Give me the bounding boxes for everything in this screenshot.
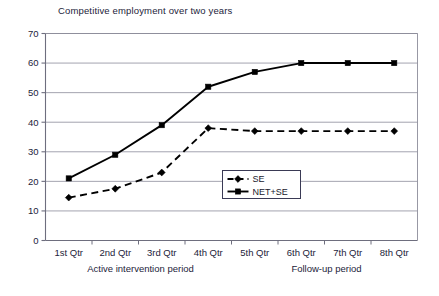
x-tick-label-2: 2nd Qtr [99, 247, 131, 258]
series-marker-net-se-4 [206, 84, 211, 89]
x-tick-label-5: 5th Qtr [240, 247, 269, 258]
y-tick-label-70: 70 [28, 28, 39, 39]
y-tick-label-50: 50 [28, 87, 39, 98]
axes [46, 34, 418, 241]
series-marker-net-se-7 [345, 60, 350, 65]
series-marker-se-3 [158, 169, 165, 176]
y-tick-label-10: 10 [28, 205, 39, 216]
x-tick-label-4: 4th Qtr [194, 247, 223, 258]
series-marker-se-4 [205, 125, 212, 132]
y-axis-labels: 010203040506070 [28, 28, 39, 246]
series-marker-se-6 [298, 128, 305, 135]
annotation-followup: Follow-up period [291, 263, 361, 274]
legend-label-se: SE [253, 174, 265, 184]
y-axis-ticks [42, 34, 46, 241]
series-marker-net-se-6 [299, 60, 304, 65]
chart-plot: 1st Qtr2nd Qtr3rd Qtr4th Qtr5th Qtr6th Q… [0, 0, 439, 296]
series-marker-se-1 [65, 194, 72, 201]
x-tick-label-1: 1st Qtr [54, 247, 83, 258]
series-marker-se-2 [112, 185, 119, 192]
x-tick-label-7: 7th Qtr [333, 247, 362, 258]
y-tick-label-30: 30 [28, 146, 39, 157]
x-axis-ticks [92, 241, 371, 245]
y-tick-label-0: 0 [33, 235, 38, 246]
y-tick-label-60: 60 [28, 57, 39, 68]
series-marker-net-se-8 [392, 60, 397, 65]
x-tick-label-3: 3rd Qtr [147, 247, 177, 258]
legend-marker-net-se [235, 189, 240, 194]
series-marker-se-7 [344, 128, 351, 135]
x-tick-label-6: 6th Qtr [287, 247, 316, 258]
x-axis-labels: 1st Qtr2nd Qtr3rd Qtr4th Qtr5th Qtr6th Q… [54, 247, 408, 258]
series-marker-se-8 [391, 128, 398, 135]
series-line-net-se [69, 63, 395, 178]
series-marker-net-se-3 [159, 123, 164, 128]
series-marker-net-se-5 [252, 69, 257, 74]
annotation-active-intervention: Active intervention period [87, 263, 194, 274]
y-tick-label-20: 20 [28, 176, 39, 187]
series-marker-net-se-1 [66, 176, 71, 181]
series-marker-se-5 [251, 128, 258, 135]
series-marker-net-se-2 [113, 152, 118, 157]
x-tick-label-8: 8th Qtr [380, 247, 409, 258]
period-annotations: Active intervention periodFollow-up peri… [87, 263, 361, 274]
chart-legend: SENET+SE [223, 171, 301, 199]
legend-label-net-se: NET+SE [253, 187, 288, 197]
y-tick-label-40: 40 [28, 117, 39, 128]
chart-container: Competitive employment over two years 1s… [0, 0, 439, 296]
